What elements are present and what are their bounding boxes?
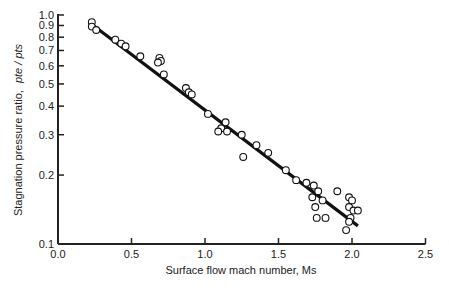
x-tick-label: 0.5 [124, 248, 139, 260]
data-point [322, 215, 329, 222]
data-point [309, 194, 316, 201]
data-point [354, 207, 361, 214]
data-point [160, 71, 167, 78]
data-point [315, 188, 322, 195]
y-tick-label: 0.1 [39, 238, 54, 250]
data-point [346, 218, 353, 225]
x-tick-label: 1.0 [197, 248, 212, 260]
data-point [293, 177, 300, 184]
data-point [265, 149, 272, 156]
data-point [240, 154, 247, 161]
x-tick-label: 1.5 [271, 248, 286, 260]
y-axis-label-symbol: pte / pts [12, 43, 24, 84]
y-tick-label: 0.8 [39, 31, 54, 43]
y-axis-label-main: Stagnation pressure ratio, [12, 90, 24, 216]
y-tick-label: 0.7 [39, 44, 54, 56]
y-tick-label: 0.5 [39, 78, 54, 90]
data-point [303, 179, 310, 186]
y-tick-label: 0.6 [39, 60, 54, 72]
x-tick-label: 2.5 [418, 248, 433, 260]
data-point [205, 110, 212, 117]
data-point [334, 188, 341, 195]
data-point [313, 215, 320, 222]
x-axis-label: Surface flow mach number, Ms [165, 264, 317, 276]
scatter-chart: 0.00.51.01.52.02.51.00.90.80.70.60.50.40… [0, 0, 449, 288]
data-point [319, 197, 326, 204]
y-tick-label: 0.3 [39, 129, 54, 141]
x-tick-label: 2.0 [344, 248, 359, 260]
data-point [349, 197, 356, 204]
data-point [343, 227, 350, 234]
data-point [224, 128, 231, 135]
data-point [222, 119, 229, 126]
y-axis-label: Stagnation pressure ratio, pte / pts [12, 43, 24, 216]
data-point [93, 27, 100, 34]
data-point [215, 128, 222, 135]
y-tick-label: 0.9 [39, 19, 54, 31]
data-point [155, 59, 162, 66]
data-point [282, 167, 289, 174]
data-point [312, 204, 319, 211]
data-point [238, 131, 245, 138]
y-tick-label: 0.4 [39, 100, 54, 112]
data-point [253, 142, 260, 149]
data-point [122, 43, 129, 50]
y-tick-label: 0.2 [39, 169, 54, 181]
data-point [188, 91, 195, 98]
data-point [137, 53, 144, 60]
